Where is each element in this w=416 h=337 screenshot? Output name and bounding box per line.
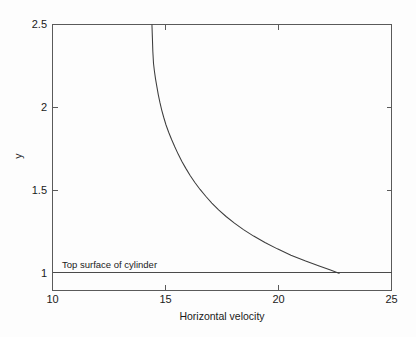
velocity-profile-chart: 2.5 2 1.5 1 10 15 20 25 Horizontal veloc… xyxy=(0,0,416,337)
y-tick-label-1.5: 1.5 xyxy=(32,184,47,196)
top-surface-of-cylinder-label: Top surface of cylinder xyxy=(62,259,157,270)
x-tick-labels: 10 15 20 25 xyxy=(46,293,397,305)
y-tick-labels: 2.5 2 1.5 1 xyxy=(32,18,47,279)
x-tick-label-25: 25 xyxy=(385,293,397,305)
x-tick-label-20: 20 xyxy=(272,293,284,305)
figure-container: 2.5 2 1.5 1 10 15 20 25 Horizontal veloc… xyxy=(0,0,416,337)
y-axis-ticks xyxy=(53,25,392,273)
x-tick-label-10: 10 xyxy=(46,293,58,305)
y-tick-label-2.5: 2.5 xyxy=(32,18,47,30)
x-axis-ticks xyxy=(53,25,392,291)
chart-screenshot: 2.5 2 1.5 1 10 15 20 25 Horizontal veloc… xyxy=(0,0,416,337)
x-axis-title: Horizontal velocity xyxy=(179,310,265,322)
velocity-profile-curve xyxy=(152,25,340,274)
x-tick-label-15: 15 xyxy=(159,293,171,305)
y-axis-title: y xyxy=(12,153,24,159)
plot-frame-box xyxy=(53,25,392,291)
y-tick-label-1: 1 xyxy=(41,267,47,279)
y-tick-label-2: 2 xyxy=(41,101,47,113)
